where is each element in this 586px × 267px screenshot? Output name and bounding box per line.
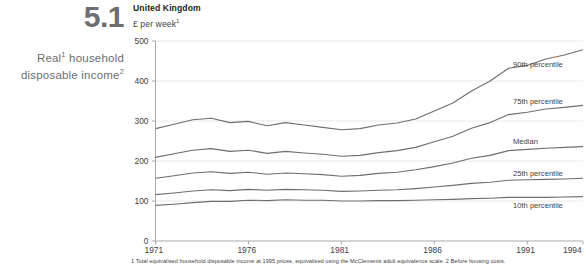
- chart-footnote: 1 Total equivalised household disposable…: [131, 258, 505, 264]
- y-axis-tick-label-100: 100: [125, 196, 149, 206]
- y-axis-tick-label-0: 0: [125, 236, 149, 246]
- series-label-25th-percentile: 25th percentile: [513, 169, 563, 178]
- x-axis-tick-label-1981: 1981: [330, 245, 349, 255]
- series-line-25th-percentile: [156, 178, 584, 194]
- chart-canvas: [0, 0, 586, 267]
- x-axis-tick-label-1976: 1976: [237, 245, 256, 255]
- y-axis-tick-label-200: 200: [125, 156, 149, 166]
- x-axis-tick-label-1971: 1971: [145, 245, 164, 255]
- y-axis-tick-label-500: 500: [125, 36, 149, 46]
- series-label-median: Median: [513, 137, 538, 146]
- series-label-75th-percentile: 75th percentile: [513, 97, 563, 106]
- series-label-10th-percentile: 10th percentile: [513, 201, 563, 210]
- x-axis-tick-label-1986: 1986: [423, 245, 442, 255]
- series-label-90th-percentile: 90th percentile: [513, 60, 563, 69]
- y-axis-tick-label-400: 400: [125, 76, 149, 86]
- x-axis-tick-label-1994: 1994: [563, 245, 582, 255]
- x-axis-tick-label-1991: 1991: [516, 245, 535, 255]
- line-chart: 0100200300400500197119761981198619911994…: [0, 0, 586, 267]
- y-axis-tick-label-300: 300: [125, 116, 149, 126]
